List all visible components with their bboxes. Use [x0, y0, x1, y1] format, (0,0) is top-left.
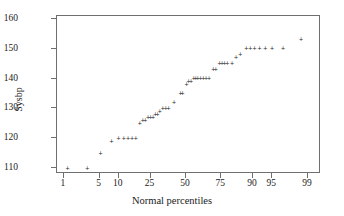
data-point — [217, 61, 222, 66]
data-point — [270, 46, 275, 51]
y-axis-tick-label: 130 — [4, 102, 18, 112]
data-point — [126, 136, 131, 141]
data-point — [98, 151, 103, 156]
x-axis-tick-mark — [99, 173, 100, 178]
data-point — [129, 136, 134, 141]
data-point — [153, 112, 158, 117]
x-axis-tick-label: 1 — [60, 178, 65, 188]
data-point — [191, 76, 196, 81]
data-point — [213, 67, 218, 72]
data-point — [186, 79, 191, 84]
data-point — [198, 76, 203, 81]
data-point — [145, 115, 150, 120]
data-point — [252, 46, 257, 51]
y-axis-tick-label: 110 — [4, 162, 18, 172]
data-point — [121, 136, 126, 141]
data-point — [184, 82, 189, 87]
data-point — [281, 46, 286, 51]
x-axis-tick-label: 75 — [216, 178, 226, 188]
x-axis-tick-label: 95 — [266, 178, 276, 188]
data-point — [160, 106, 165, 111]
data-point — [133, 136, 138, 141]
data-point — [299, 37, 304, 42]
x-axis-tick-mark — [307, 173, 308, 178]
data-point — [140, 118, 145, 123]
x-axis-tick-mark — [185, 173, 186, 178]
data-point — [180, 91, 185, 96]
x-axis-label: Normal percentiles — [0, 195, 344, 206]
x-axis-tick-label: 5 — [96, 178, 101, 188]
data-point — [233, 55, 238, 60]
data-point — [263, 46, 268, 51]
normal-probability-plot: Sysbp 110120130140150160 151025507590959… — [0, 0, 344, 216]
x-axis-tick-label: 90 — [247, 178, 257, 188]
y-axis-tick-label: 140 — [4, 73, 18, 83]
data-point — [157, 109, 162, 114]
x-axis-tick-label: 99 — [302, 178, 312, 188]
data-point — [211, 67, 216, 72]
data-point — [109, 139, 114, 144]
x-axis-tick-mark — [252, 173, 253, 178]
data-point — [220, 61, 225, 66]
data-point — [85, 166, 90, 171]
data-point — [148, 115, 153, 120]
data-point — [204, 76, 209, 81]
data-point — [166, 106, 171, 111]
data-point — [155, 112, 160, 117]
y-axis-tick-label: 150 — [4, 43, 18, 53]
data-point — [244, 46, 249, 51]
data-point — [163, 106, 168, 111]
plot-area — [56, 15, 320, 173]
data-point — [137, 121, 142, 126]
x-axis-tick-label: 10 — [113, 178, 123, 188]
data-point — [257, 46, 262, 51]
x-axis-tick-mark — [220, 173, 221, 178]
data-point — [195, 76, 200, 81]
y-axis-tick-label: 160 — [4, 13, 18, 23]
data-point — [65, 166, 70, 171]
x-axis-tick-mark — [271, 173, 272, 178]
x-axis-tick-mark — [63, 173, 64, 178]
data-point — [193, 76, 198, 81]
data-point — [206, 76, 211, 81]
data-point — [225, 61, 230, 66]
data-point — [150, 115, 155, 120]
data-point — [116, 136, 121, 141]
data-point — [248, 46, 253, 51]
data-point — [222, 61, 227, 66]
data-point — [143, 118, 148, 123]
data-point — [189, 79, 194, 84]
y-axis-tick-label: 120 — [4, 132, 18, 142]
data-point — [229, 61, 234, 66]
data-point — [201, 76, 206, 81]
x-axis-tick-label: 25 — [145, 178, 155, 188]
x-axis-tick-mark — [150, 173, 151, 178]
data-point — [238, 52, 243, 57]
x-axis-tick-label: 50 — [180, 178, 190, 188]
x-axis-tick-mark — [118, 173, 119, 178]
data-point — [178, 91, 183, 96]
data-point — [171, 100, 176, 105]
